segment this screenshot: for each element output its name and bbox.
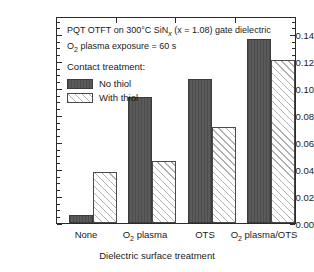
annotation-line-1-post: (x = 1.08) gate dielectric (172, 25, 271, 35)
y-major-tick-0.14 (57, 35, 62, 36)
plot-area: PQT OTFT on 300°C SiNx (x = 1.08) gate d… (56, 17, 296, 224)
y-major-tick-0.02 (57, 197, 62, 198)
bar-none-with-thiol (93, 172, 117, 223)
legend-swatch-with-thiol (67, 93, 93, 103)
annotation-line-1-pre: PQT OTFT on 300 (67, 25, 141, 35)
bar-o2-plasma-ots-no-thiol (247, 39, 271, 223)
y-minor-tick (57, 102, 60, 103)
y-major-tick-0.04 (57, 170, 62, 171)
y-minor-tick (57, 48, 60, 49)
bar-ots-with-thiol (212, 127, 236, 223)
y-minor-tick (57, 156, 60, 157)
y-major-tick-right-0.14 (290, 35, 295, 36)
y-minor-tick (57, 28, 60, 29)
chart-annotation-text: PQT OTFT on 300°C SiNx (x = 1.08) gate d… (67, 24, 271, 56)
y-major-tick-right-0.00 (290, 224, 295, 225)
y-minor-tick (57, 123, 60, 124)
x-category-none-text: None (75, 229, 98, 240)
y-major-tick-0.10 (57, 89, 62, 90)
x-category-o2-plasma-ots-post: plasma/OTS (242, 229, 297, 240)
y-minor-tick (57, 177, 60, 178)
x-category-o2-plasma-post: plasma (134, 229, 167, 240)
legend-item-with-thiol: With thiol (67, 91, 145, 104)
x-tick-top-boundary-2 (175, 18, 176, 23)
y-major-tick-0.12 (57, 62, 62, 63)
y-minor-tick (57, 190, 60, 191)
bar-o2-plasma-no-thiol (128, 97, 152, 223)
y-minor-tick (57, 69, 60, 70)
legend-label-with-thiol: With thiol (99, 91, 138, 105)
x-axis-title: Dielectric surface treatment (0, 250, 314, 261)
y-minor-tick (57, 204, 60, 205)
legend-item-no-thiol: No thiol (67, 77, 145, 90)
y-minor-tick (57, 150, 60, 151)
bar-o2-plasma-with-thiol (152, 161, 176, 223)
y-minor-tick (57, 55, 60, 56)
y-minor-tick (57, 42, 60, 43)
y-minor-tick-right (292, 55, 295, 56)
legend-label-no-thiol: No thiol (99, 77, 131, 91)
y-minor-tick-right (292, 42, 295, 43)
chart-legend: Contact treatment: No thiol With thiol (67, 60, 145, 105)
annotation-line-1-mid: C SiN (145, 25, 169, 35)
y-minor-tick (57, 109, 60, 110)
annotation-line-2: O2 plasma exposure = 60 s (67, 40, 271, 56)
x-category-ots-text: OTS (195, 229, 215, 240)
y-minor-tick (57, 217, 60, 218)
y-minor-tick-right (292, 48, 295, 49)
bar-none-no-thiol (69, 215, 93, 223)
y-major-tick-0.08 (57, 116, 62, 117)
annotation-line-2-pre: O (67, 41, 74, 51)
legend-title: Contact treatment: (67, 60, 145, 74)
annotation-line-2-post: plasma exposure = 60 s (78, 41, 176, 51)
x-category-label-o2-plasma-ots: O2 plasma/OTS (231, 229, 298, 242)
y-minor-tick-right (292, 28, 295, 29)
y-minor-tick (57, 183, 60, 184)
y-minor-tick (57, 75, 60, 76)
y-major-tick-0.06 (57, 143, 62, 144)
x-tick-top-boundary-1 (116, 18, 117, 23)
legend-swatch-no-thiol (67, 79, 93, 89)
x-category-label-o2-plasma: O2 plasma (123, 229, 168, 242)
bar-o2-plasma-ots-with-thiol (271, 60, 295, 223)
x-category-label-none: None (75, 229, 98, 240)
annotation-line-1: PQT OTFT on 300°C SiNx (x = 1.08) gate d… (67, 24, 271, 40)
x-category-label-ots: OTS (195, 229, 215, 240)
y-minor-tick-right (292, 22, 295, 23)
y-minor-tick (57, 96, 60, 97)
y-minor-tick (57, 82, 60, 83)
saturation-mobility-bar-chart: Saturation mobility (cm2 V-1 s-1) 0.14 0… (0, 0, 314, 272)
y-minor-tick (57, 129, 60, 130)
bar-ots-no-thiol (188, 79, 212, 223)
y-minor-tick (57, 22, 60, 23)
y-minor-tick (57, 136, 60, 137)
x-tick-top-boundary-3 (235, 18, 236, 23)
y-major-tick-0.00 (57, 224, 62, 225)
y-minor-tick (57, 210, 60, 211)
y-minor-tick (57, 163, 60, 164)
